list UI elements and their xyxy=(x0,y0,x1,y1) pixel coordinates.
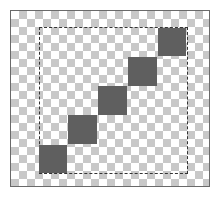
gray-square[interactable] xyxy=(68,115,97,144)
gray-square[interactable] xyxy=(98,86,127,115)
gray-square[interactable] xyxy=(158,28,186,56)
gray-square[interactable] xyxy=(39,145,67,173)
gray-square[interactable] xyxy=(128,57,157,86)
